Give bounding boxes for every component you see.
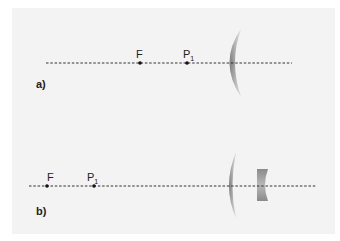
focal-point-label: F — [136, 48, 143, 60]
point-p1-label: P1 — [183, 48, 194, 62]
focal-point-marker — [138, 61, 142, 65]
focal-point-label: F — [47, 171, 54, 183]
panel-b: F P1 b) — [29, 152, 316, 218]
panel-label-b: b) — [36, 205, 47, 217]
point-p1-label: P1 — [87, 171, 98, 185]
panel-label-a: a) — [36, 78, 46, 90]
focal-point-marker — [45, 184, 49, 188]
optics-diagram: F P1 a) F P1 b) — [0, 0, 340, 241]
converging-meniscus-lens-icon — [229, 152, 236, 218]
point-p1-marker — [185, 61, 189, 65]
diverging-lens-icon — [257, 169, 268, 201]
panel-a: F P1 a) — [36, 29, 292, 97]
